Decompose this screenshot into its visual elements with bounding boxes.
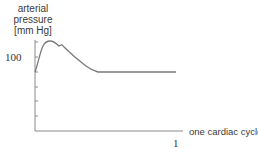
- pressure-curve: [35, 41, 176, 72]
- x-axis-label: one cardiac cycle: [189, 126, 258, 137]
- x-tick-label-1: 1: [173, 137, 179, 149]
